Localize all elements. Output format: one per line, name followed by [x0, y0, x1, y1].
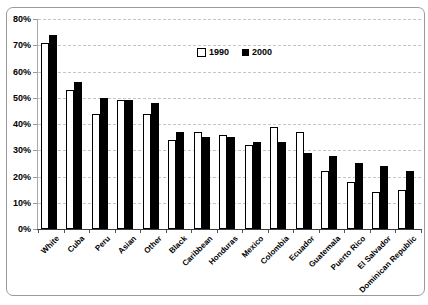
- y-axis-label: 60%: [0, 67, 31, 77]
- x-axis-tick: [64, 230, 65, 233]
- gridline-80%: [38, 19, 421, 20]
- x-axis-tick: [191, 230, 192, 233]
- bar-1990-Mexico: [245, 145, 253, 229]
- y-axis-label: 40%: [0, 119, 31, 129]
- bar-1990-White: [41, 43, 49, 229]
- bar-1990-Ecuador: [296, 132, 304, 229]
- x-axis-tick: [293, 230, 294, 233]
- y-axis-label: 30%: [0, 145, 31, 155]
- x-axis-tick: [268, 230, 269, 233]
- bar-2000-Guatemala: [329, 156, 337, 230]
- legend-item-1990: 1990: [197, 47, 229, 57]
- bar-2000-Black: [176, 132, 184, 229]
- gridline-50%: [38, 98, 421, 99]
- y-axis-label: 10%: [0, 198, 31, 208]
- x-axis-tick: [242, 230, 243, 233]
- bar-1990-Dominican Republic: [398, 190, 406, 229]
- bar-2000-Caribbean: [202, 137, 210, 229]
- gridline-60%: [38, 72, 421, 73]
- x-axis-tick: [344, 230, 345, 233]
- bar-1990-Puerto Rico: [347, 182, 355, 229]
- y-axis-label: 20%: [0, 172, 31, 182]
- bar-2000-Peru: [100, 98, 108, 229]
- bar-2000-Mexico: [253, 142, 261, 229]
- x-axis-tick: [217, 230, 218, 233]
- y-axis-line: [37, 19, 38, 229]
- bar-2000-Ecuador: [304, 153, 312, 229]
- x-axis-tick: [395, 230, 396, 233]
- bar-2000-Asian: [125, 100, 133, 229]
- y-axis-label: 70%: [0, 40, 31, 50]
- bar-1990-Guatemala: [321, 171, 329, 229]
- legend: 1990 2000: [197, 47, 272, 57]
- x-axis-tick: [319, 230, 320, 233]
- bar-1990-Cuba: [66, 90, 74, 229]
- bar-1990-Honduras: [219, 135, 227, 230]
- legend-label-2000: 2000: [252, 47, 272, 57]
- bar-1990-Peru: [92, 114, 100, 230]
- bar-1990-Asian: [117, 100, 125, 229]
- y-axis-label: 0%: [0, 224, 31, 234]
- x-axis-line: [37, 229, 422, 230]
- legend-item-2000: 2000: [242, 47, 272, 57]
- x-axis-tick: [421, 230, 422, 233]
- bar-1990-El Salvador: [372, 192, 380, 229]
- bar-2000-El Salvador: [380, 166, 388, 229]
- bar-2000-Dominican Republic: [406, 171, 414, 229]
- bar-2000-White: [49, 35, 57, 229]
- bar-1990-Black: [168, 140, 176, 229]
- x-axis-tick: [38, 230, 39, 233]
- legend-label-1990: 1990: [209, 47, 229, 57]
- bar-chart-figure: 1990 2000 0%10%20%30%40%50%60%70%80%Whit…: [0, 0, 428, 305]
- x-axis-tick: [140, 230, 141, 233]
- legend-swatch-1990-icon: [197, 48, 206, 57]
- bar-1990-Colombia: [270, 127, 278, 229]
- bar-2000-Cuba: [74, 82, 82, 229]
- y-axis-label: 80%: [0, 14, 31, 24]
- x-axis-tick: [370, 230, 371, 233]
- bar-2000-Other: [151, 103, 159, 229]
- gridline-70%: [38, 45, 421, 46]
- bar-2000-Colombia: [278, 142, 286, 229]
- y-axis-label: 50%: [0, 93, 31, 103]
- bar-2000-Puerto Rico: [355, 163, 363, 229]
- x-axis-tick: [89, 230, 90, 233]
- x-axis-tick: [115, 230, 116, 233]
- x-axis-tick: [166, 230, 167, 233]
- bar-2000-Honduras: [227, 137, 235, 229]
- legend-swatch-2000-icon: [242, 49, 249, 56]
- bar-1990-Other: [143, 114, 151, 230]
- bar-1990-Caribbean: [194, 132, 202, 229]
